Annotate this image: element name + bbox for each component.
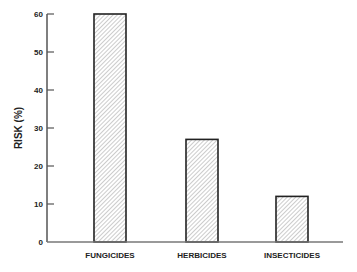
y-tick-label: 20	[34, 162, 43, 171]
y-tick-label: 10	[34, 200, 43, 209]
bars	[94, 14, 308, 242]
y-tick-label: 0	[39, 238, 44, 247]
category-label: FUNGICIDES	[85, 251, 135, 260]
y-tick-label: 60	[34, 10, 43, 19]
x-labels: FUNGICIDESHERBICIDESINSECTICIDES	[85, 251, 320, 260]
bar-chart: 0102030405060 FUNGICIDESHERBICIDESINSECT…	[0, 0, 357, 272]
bar-herbicides	[186, 139, 218, 242]
bar-insecticides	[276, 196, 308, 242]
y-tick-label: 40	[34, 86, 43, 95]
y-ticks: 0102030405060	[34, 10, 54, 247]
category-label: HERBICIDES	[177, 251, 227, 260]
bar-fungicides	[94, 14, 126, 242]
y-tick-label: 50	[34, 48, 43, 57]
category-label: INSECTICIDES	[264, 251, 321, 260]
y-tick-label: 30	[34, 124, 43, 133]
y-axis-title: RISK (%)	[13, 107, 24, 149]
